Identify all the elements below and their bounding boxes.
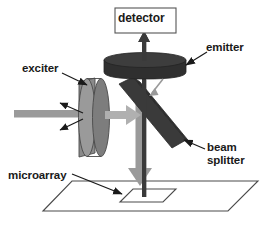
splitter-beam-shaft bbox=[105, 111, 129, 119]
beam-splitter-label-line2: splitter bbox=[207, 154, 245, 167]
excitation-source-beam bbox=[14, 110, 86, 118]
emitter-leader-line bbox=[186, 52, 207, 65]
diagram-root: detector emitter exciter beam splitter m… bbox=[0, 0, 265, 226]
emitter-label: emitter bbox=[206, 41, 244, 54]
exciter-label: exciter bbox=[22, 62, 58, 75]
detector-label: detector bbox=[118, 12, 165, 25]
beam-splitter-label-line1: beam bbox=[207, 141, 245, 154]
beam-splitter-label: beam splitter bbox=[207, 141, 245, 166]
emission-beam-overlay bbox=[142, 80, 146, 197]
emitter-stray-ray bbox=[149, 79, 163, 96]
beam-splitter-leader-line bbox=[184, 140, 205, 149]
microarray-stage bbox=[43, 181, 258, 211]
exciter-component bbox=[14, 78, 110, 157]
optical-path-diagram bbox=[0, 0, 265, 226]
exciter-leader-line bbox=[62, 73, 87, 85]
microarray-label: microarray bbox=[8, 169, 66, 182]
emitter-stray-ray-arrowhead bbox=[149, 88, 159, 96]
